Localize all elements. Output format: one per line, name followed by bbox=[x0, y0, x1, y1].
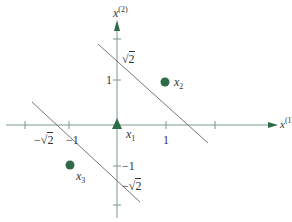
y-tick-label-neg-sqrt2: −√2 bbox=[122, 180, 141, 192]
point-x2-label: x2 bbox=[174, 76, 183, 91]
y-axis-arrow-icon bbox=[114, 20, 120, 31]
y-axis-label: x(2) bbox=[113, 6, 128, 19]
x-tick-label-1: 1 bbox=[163, 134, 169, 146]
x-axis-arrow-icon bbox=[268, 122, 278, 128]
x-tick-label-neg1: −1 bbox=[66, 134, 79, 146]
y-tick-label-sqrt2: √2 bbox=[122, 53, 135, 65]
y-tick-label-neg1: −1 bbox=[122, 160, 135, 172]
point-x1-triangle-icon bbox=[112, 118, 122, 129]
point-x3-label: x3 bbox=[76, 170, 85, 185]
diagram-canvas bbox=[0, 0, 292, 222]
point-x2-circle-icon bbox=[161, 78, 170, 87]
y-tick-label-1: 1 bbox=[106, 74, 112, 86]
point-x1-label: x1 bbox=[126, 128, 135, 143]
x-tick-label-neg-sqrt2: −√2 bbox=[34, 134, 53, 146]
x-axis-label: x(1) bbox=[280, 117, 292, 130]
point-x3-circle-icon bbox=[66, 161, 75, 170]
